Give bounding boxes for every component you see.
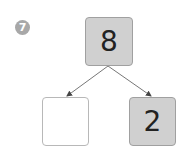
right-number: 2 — [144, 105, 162, 138]
arrow-right — [108, 66, 151, 96]
left-answer-box[interactable] — [42, 97, 89, 146]
arrow-left — [67, 66, 108, 96]
top-number-box: 8 — [85, 17, 133, 66]
right-number-box: 2 — [129, 97, 176, 146]
top-number: 8 — [100, 25, 118, 58]
